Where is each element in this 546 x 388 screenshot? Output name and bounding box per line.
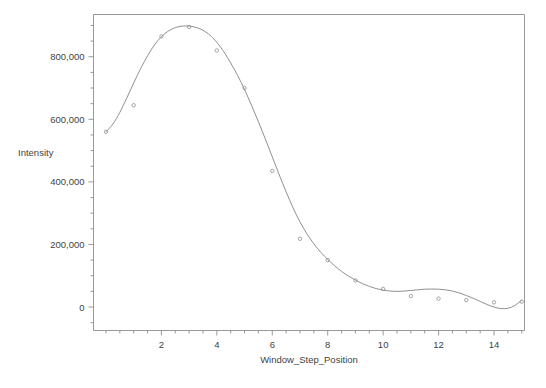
x-tick-label: 12 xyxy=(433,339,444,350)
scatter-plot: 0200,000400,000600,000800,000 2468101214… xyxy=(0,0,546,388)
y-axis-major-ticks xyxy=(89,57,94,307)
y-tick-label: 400,000 xyxy=(50,176,84,187)
data-point-marker xyxy=(271,169,274,172)
y-tick-label: 0 xyxy=(79,302,84,313)
x-tick-label: 4 xyxy=(214,339,219,350)
x-tick-label: 10 xyxy=(378,339,389,350)
chart-container: 0200,000400,000600,000800,000 2468101214… xyxy=(0,0,546,388)
y-tick-label: 600,000 xyxy=(50,114,84,125)
data-markers xyxy=(104,25,523,304)
x-tick-label: 14 xyxy=(489,339,500,350)
plot-frame xyxy=(94,15,525,331)
x-tick-label: 6 xyxy=(270,339,275,350)
x-axis-major-ticks xyxy=(161,331,494,336)
data-point-marker xyxy=(465,298,468,301)
data-point-marker xyxy=(298,237,301,240)
y-axis-title: Intensity xyxy=(18,147,54,158)
data-point-marker xyxy=(215,49,218,52)
y-axis-tick-labels: 0200,000400,000600,000800,000 xyxy=(50,51,84,312)
data-point-marker xyxy=(409,294,412,297)
data-point-marker xyxy=(492,301,495,304)
x-axis-tick-labels: 2468101214 xyxy=(159,339,500,350)
y-tick-label: 200,000 xyxy=(50,239,84,250)
x-axis-title: Window_Step_Position xyxy=(260,354,358,365)
data-point-marker xyxy=(437,297,440,300)
y-tick-label: 800,000 xyxy=(50,51,84,62)
data-point-marker xyxy=(132,104,135,107)
x-tick-label: 8 xyxy=(325,339,330,350)
fit-curve xyxy=(106,26,522,309)
x-tick-label: 2 xyxy=(159,339,164,350)
